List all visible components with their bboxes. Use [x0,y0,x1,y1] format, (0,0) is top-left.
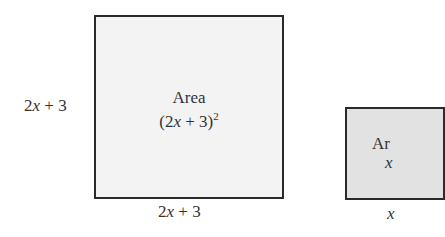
small-square [345,107,445,200]
small-square-area-expr: x [372,153,393,172]
small-square-area-label: Ar x [372,134,393,172]
large-square-side-label: 2x + 3 [24,96,67,116]
large-square-area-title: Area [94,88,284,107]
large-square-area-expr: (2x + 3)2 [94,107,284,131]
large-square-area-label: Area (2x + 3)2 [94,88,284,131]
small-square-bottom-label: x [387,204,395,224]
small-square-area-title: Ar [372,134,393,153]
large-square-bottom-label: 2x + 3 [158,202,201,222]
